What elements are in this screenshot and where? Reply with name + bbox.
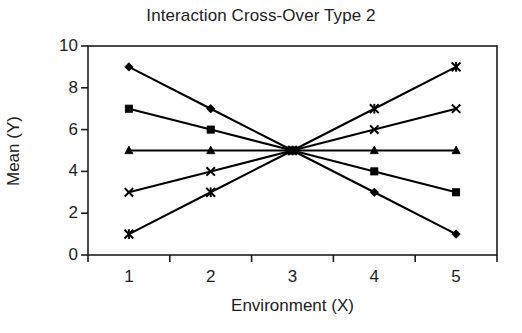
data-point-marker (125, 229, 134, 239)
data-point-marker (206, 187, 215, 197)
plot-area (0, 0, 522, 333)
x-axis-tick-label: 3 (288, 267, 297, 287)
y-axis-tick-label: 0 (34, 245, 78, 265)
x-axis-tick-label: 5 (451, 267, 460, 287)
x-axis-title: Environment (X) (88, 296, 497, 316)
data-point-marker (125, 105, 132, 112)
y-axis-tick-label: 10 (34, 36, 78, 56)
data-point-marker (452, 230, 460, 238)
x-axis-tick-label: 4 (370, 267, 379, 287)
data-point-marker (207, 105, 215, 113)
data-point-marker (453, 189, 460, 196)
data-point-marker (207, 126, 214, 133)
data-point-marker (370, 104, 379, 114)
y-axis-tick-label: 2 (34, 203, 78, 223)
data-point-marker (452, 62, 461, 72)
data-point-marker (370, 188, 378, 196)
y-axis-tick-label: 4 (34, 161, 78, 181)
x-axis-tick-label: 2 (206, 267, 215, 287)
data-point-marker (371, 168, 378, 175)
chart-figure: Interaction Cross-Over Type 2 Mean (Y) E… (0, 0, 522, 333)
data-point-marker (125, 63, 133, 71)
y-axis-tick-label: 8 (34, 78, 78, 98)
y-axis-title: Mean (Y) (4, 116, 24, 186)
x-axis-tick-label: 1 (124, 267, 133, 287)
y-axis-tick-label: 6 (34, 120, 78, 140)
